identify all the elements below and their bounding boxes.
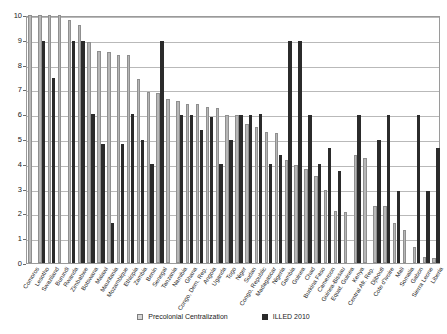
bar-precolonial bbox=[117, 55, 120, 263]
bar-illed bbox=[357, 115, 360, 263]
y-tick-mark bbox=[23, 264, 26, 265]
bar-illed bbox=[160, 41, 163, 263]
bar-illed bbox=[259, 114, 262, 263]
bar-precolonial bbox=[107, 52, 110, 263]
y-tick-label: 9 bbox=[18, 37, 22, 45]
bar-illed bbox=[387, 115, 390, 263]
bars-layer bbox=[27, 17, 439, 263]
legend-label: ILLED 2010 bbox=[273, 313, 310, 320]
y-tick-label: 5 bbox=[18, 136, 22, 144]
bar-precolonial bbox=[245, 124, 248, 263]
bar-precolonial bbox=[87, 42, 90, 263]
bar-precolonial bbox=[275, 133, 278, 263]
y-tick-label: 1 bbox=[18, 235, 22, 243]
bar-precolonial bbox=[413, 247, 416, 263]
bar-precolonial bbox=[294, 165, 297, 263]
y-tick-label: 7 bbox=[18, 87, 22, 95]
bar-precolonial bbox=[255, 127, 258, 263]
bar-illed bbox=[72, 41, 75, 263]
bar-precolonial bbox=[363, 158, 366, 263]
bar-illed bbox=[288, 41, 291, 263]
bar-precolonial bbox=[176, 101, 179, 263]
bar-precolonial bbox=[28, 15, 31, 263]
bar-illed bbox=[298, 41, 301, 263]
bar-precolonial bbox=[38, 15, 41, 263]
bar-precolonial bbox=[225, 115, 228, 263]
bar-illed bbox=[219, 164, 222, 263]
bar-illed bbox=[131, 114, 134, 263]
bar-precolonial bbox=[383, 206, 386, 263]
bar-precolonial bbox=[206, 107, 209, 263]
bar-illed bbox=[101, 144, 104, 263]
bar-precolonial bbox=[137, 79, 140, 263]
bar-precolonial bbox=[334, 211, 337, 263]
legend-swatch-icon bbox=[137, 314, 143, 320]
bar-illed bbox=[210, 117, 213, 263]
y-axis: 012345678910 bbox=[0, 16, 26, 264]
bar-precolonial bbox=[324, 190, 327, 263]
y-tick-label: 8 bbox=[18, 62, 22, 70]
bar-precolonial bbox=[48, 15, 51, 263]
bar-precolonial bbox=[423, 257, 426, 263]
bar-precolonial bbox=[314, 176, 317, 263]
bar-illed bbox=[141, 140, 144, 263]
bar-illed bbox=[42, 41, 45, 263]
bar-precolonial bbox=[166, 99, 169, 263]
y-tick-label: 6 bbox=[18, 111, 22, 119]
bar-precolonial bbox=[344, 212, 347, 263]
bar-precolonial bbox=[78, 25, 81, 263]
y-tick-label: 0 bbox=[18, 260, 22, 268]
bar-illed bbox=[81, 41, 84, 263]
bar-precolonial bbox=[304, 169, 307, 263]
bar-illed bbox=[249, 115, 252, 263]
bar-precolonial bbox=[68, 20, 71, 263]
y-tick-label: 3 bbox=[18, 186, 22, 194]
legend-item: ILLED 2010 bbox=[262, 313, 310, 320]
bar-precolonial bbox=[156, 93, 159, 263]
y-tick-label: 10 bbox=[14, 12, 22, 20]
y-tick-label: 2 bbox=[18, 211, 22, 219]
bar-precolonial bbox=[216, 108, 219, 263]
plot-area bbox=[26, 16, 440, 264]
bar-illed bbox=[426, 191, 429, 263]
bar-precolonial bbox=[58, 15, 61, 263]
bar-illed bbox=[190, 115, 193, 263]
bar-illed bbox=[417, 115, 420, 263]
bar-precolonial bbox=[127, 55, 130, 263]
bar-illed bbox=[397, 191, 400, 263]
bar-precolonial bbox=[147, 92, 150, 263]
bar-precolonial bbox=[403, 230, 406, 263]
bar-precolonial bbox=[235, 115, 238, 263]
bar-illed bbox=[279, 155, 282, 263]
bar-precolonial bbox=[432, 258, 435, 263]
bar-illed bbox=[338, 171, 341, 263]
bar-precolonial bbox=[373, 206, 376, 263]
bar-precolonial bbox=[196, 104, 199, 263]
bar-illed bbox=[269, 164, 272, 263]
bar-illed bbox=[436, 148, 439, 263]
y-tick-label: 4 bbox=[18, 161, 22, 169]
bar-precolonial bbox=[393, 223, 396, 263]
bar-illed bbox=[52, 78, 55, 263]
bar-precolonial bbox=[186, 104, 189, 263]
legend-swatch-icon bbox=[262, 314, 268, 320]
bar-illed bbox=[111, 223, 114, 263]
legend-label: Precolonial Centralization bbox=[148, 313, 227, 320]
bar-precolonial bbox=[265, 132, 268, 263]
bar-illed bbox=[308, 115, 311, 263]
bar-precolonial bbox=[354, 155, 357, 263]
bar-illed bbox=[239, 115, 242, 263]
bar-illed bbox=[200, 130, 203, 263]
bar-illed bbox=[377, 140, 380, 263]
bar-illed bbox=[150, 164, 153, 263]
bar-illed bbox=[229, 140, 232, 263]
bar-illed bbox=[180, 115, 183, 263]
bar-precolonial bbox=[285, 160, 288, 263]
bar-illed bbox=[328, 148, 331, 263]
bar-illed bbox=[91, 114, 94, 263]
bar-chart: 012345678910 ComorosLesothoSwazilandBuru… bbox=[0, 0, 447, 334]
bar-illed bbox=[318, 164, 321, 263]
bar-illed bbox=[121, 144, 124, 263]
legend-item: Precolonial Centralization bbox=[137, 313, 227, 320]
bar-precolonial bbox=[97, 51, 100, 263]
